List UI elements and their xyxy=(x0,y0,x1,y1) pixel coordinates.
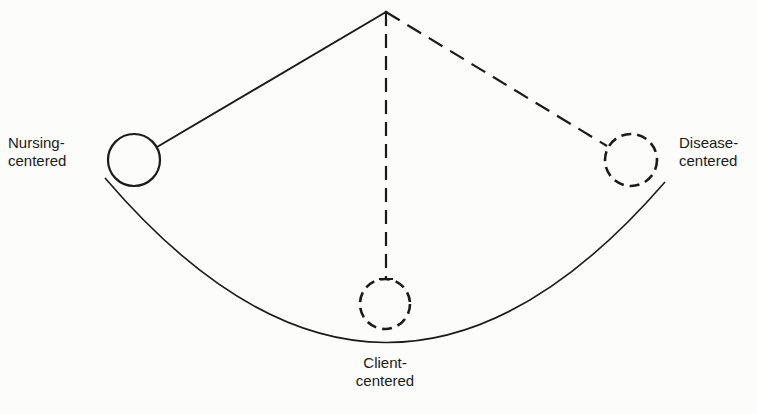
bob-client-dashed xyxy=(360,279,410,329)
label-disease-centered: Disease- centered xyxy=(679,134,738,170)
label-client-centered: Client- centered xyxy=(352,354,418,390)
string-nursing xyxy=(157,12,386,147)
pivot-point xyxy=(385,11,388,14)
label-nursing-line1: Nursing- xyxy=(8,134,66,152)
bob-nursing-solid xyxy=(108,134,160,186)
diagram-canvas xyxy=(0,0,757,414)
pendulum-diagram: Nursing- centered Disease- centered Clie… xyxy=(0,0,757,414)
label-client-line2: centered xyxy=(352,372,418,390)
string-disease xyxy=(386,12,607,146)
label-nursing-centered: Nursing- centered xyxy=(8,134,66,170)
bob-disease-dashed xyxy=(605,134,657,186)
label-nursing-line2: centered xyxy=(8,152,66,170)
label-disease-line2: centered xyxy=(679,152,738,170)
label-client-line1: Client- xyxy=(352,354,418,372)
label-disease-line1: Disease- xyxy=(679,134,738,152)
